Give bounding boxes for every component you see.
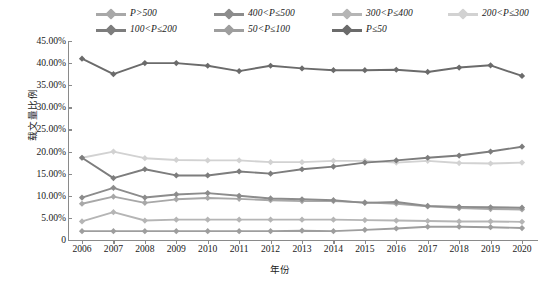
series-marker: [173, 60, 179, 66]
series-marker: [110, 194, 116, 200]
series-marker: [267, 63, 273, 69]
x-tick-mark: [176, 240, 177, 244]
series-marker: [487, 160, 493, 166]
legend-row-1: P>500400<P≤500300<P≤400200<P≤300: [96, 9, 552, 25]
series-marker: [456, 64, 462, 70]
x-tick-mark: [491, 240, 492, 244]
series-marker: [456, 160, 462, 166]
legend-swatch-icon: [96, 25, 126, 35]
series-marker: [236, 157, 242, 163]
series-marker: [110, 71, 116, 77]
series-p-50: [79, 56, 525, 79]
legend-item-100-p-200[interactable]: 100<P≤200: [96, 25, 177, 35]
series-marker: [362, 227, 368, 233]
series-marker: [519, 225, 525, 231]
y-tick-label: 15.00%: [8, 169, 66, 179]
legend-label: 400<P≤500: [248, 9, 295, 19]
series-marker: [142, 155, 148, 161]
y-tick-mark: [68, 63, 72, 64]
y-tick-mark: [68, 107, 72, 108]
x-tick-mark: [82, 240, 83, 244]
series-marker: [267, 228, 273, 234]
y-axis-title: 载文量比例: [25, 75, 39, 155]
y-tick-mark: [68, 152, 72, 153]
series-marker: [205, 63, 211, 69]
x-axis-labels: 2006200720082009201020112012201320142015…: [0, 244, 560, 258]
x-tick-mark: [333, 240, 334, 244]
legend-swatch-icon: [214, 25, 244, 35]
series-marker: [236, 68, 242, 74]
series-marker: [425, 218, 431, 224]
x-tick-mark: [271, 240, 272, 244]
legend-row-2: 100<P≤20050<P≤100P≤50: [96, 25, 552, 41]
series-marker: [79, 201, 85, 207]
plot-area: [68, 41, 538, 240]
y-tick-mark: [68, 174, 72, 175]
series-marker: [487, 218, 493, 224]
series-marker: [330, 228, 336, 234]
x-tick-mark: [145, 240, 146, 244]
series-marker: [330, 217, 336, 223]
series-marker: [142, 200, 148, 206]
series-300-p-400: [79, 209, 525, 225]
x-tick-mark: [428, 240, 429, 244]
legend-label: P>500: [130, 9, 157, 19]
series-marker: [456, 224, 462, 230]
series-marker: [299, 166, 305, 172]
series-marker: [173, 191, 179, 197]
legend-swatch-icon: [96, 9, 126, 19]
x-tick-mark: [365, 240, 366, 244]
series-marker: [142, 60, 148, 66]
series-marker: [330, 163, 336, 169]
series-marker: [142, 166, 148, 172]
legend-label: 50<P≤100: [248, 25, 290, 35]
series-marker: [110, 185, 116, 191]
legend-swatch-icon: [214, 9, 244, 19]
legend-item-50-p-100[interactable]: 50<P≤100: [214, 25, 290, 35]
y-tick-mark: [68, 41, 72, 42]
legend-label: 200<P≤300: [482, 9, 529, 19]
y-tick-label: 45.00%: [8, 36, 66, 46]
legend-item-400-p-500[interactable]: 400<P≤500: [214, 9, 295, 19]
series-400-p-500: [79, 185, 525, 211]
series-marker: [362, 217, 368, 223]
series-marker: [142, 194, 148, 200]
series-marker: [519, 73, 525, 79]
series-marker: [205, 172, 211, 178]
series-marker: [519, 219, 525, 225]
series-marker: [330, 197, 336, 203]
legend-item-200-p-300[interactable]: 200<P≤300: [448, 9, 529, 19]
series-marker: [362, 67, 368, 73]
series-marker: [110, 209, 116, 215]
y-tick-mark: [68, 129, 72, 130]
series-marker: [330, 67, 336, 73]
y-tick-mark: [68, 196, 72, 197]
series-marker: [456, 152, 462, 158]
series-marker: [79, 194, 85, 200]
series-marker: [79, 218, 85, 224]
series-marker: [173, 157, 179, 163]
series-marker: [299, 228, 305, 234]
series-marker: [425, 224, 431, 230]
chart-figure: P>500400<P≤500300<P≤400200<P≤300 100<P≤2…: [0, 0, 560, 286]
series-marker: [299, 217, 305, 223]
x-tick-label: 2020: [502, 244, 542, 254]
y-tick-label: 10.00%: [8, 191, 66, 201]
series-marker: [267, 171, 273, 177]
legend-label: P≤50: [366, 25, 387, 35]
legend-item-p-50[interactable]: P≤50: [332, 25, 387, 35]
series-marker: [393, 225, 399, 231]
legend-label: 100<P≤200: [130, 25, 177, 35]
chart-legend: P>500400<P≤500300<P≤400200<P≤300 100<P≤2…: [96, 9, 552, 41]
series-marker: [267, 217, 273, 223]
legend-item-p-500[interactable]: P>500: [96, 9, 157, 19]
y-tick-mark: [68, 218, 72, 219]
x-tick-mark: [522, 240, 523, 244]
series-marker: [299, 159, 305, 165]
series-marker: [362, 200, 368, 206]
y-tick-label: 5.00%: [8, 213, 66, 223]
series-marker: [487, 148, 493, 154]
series-marker: [205, 157, 211, 163]
series-marker: [487, 62, 493, 68]
legend-item-300-p-400[interactable]: 300<P≤400: [332, 9, 413, 19]
